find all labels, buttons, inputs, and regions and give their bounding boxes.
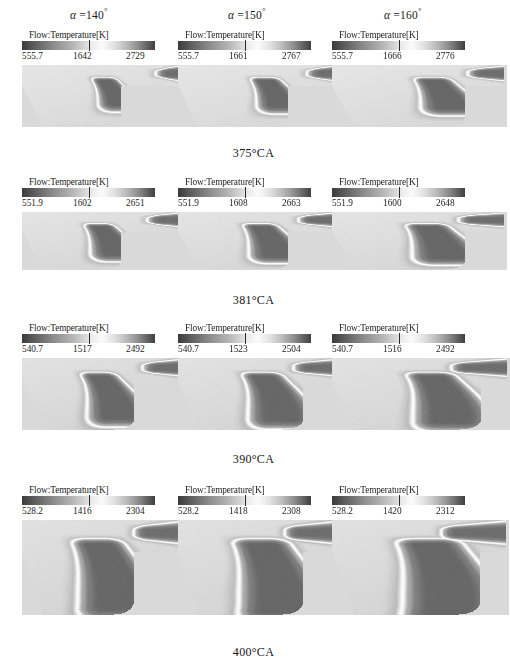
alpha-value: 140	[86, 9, 104, 21]
colorbar-label-max: 2663	[282, 198, 301, 208]
colorbar-label-min: 540.7	[22, 344, 43, 354]
colorbar	[332, 188, 465, 197]
contour-plot	[22, 212, 182, 270]
contour-plot	[178, 358, 343, 430]
colorbar-midtick	[399, 40, 400, 51]
panel-390ca-alpha150: Flow:Temperature[K] 540.7 1523 2504	[178, 323, 343, 430]
colorbar-label-max: 2504	[282, 344, 301, 354]
colorbar-label-mid: 1420	[383, 506, 402, 516]
colorbar	[332, 496, 465, 505]
panel-390ca-alpha160: Flow:Temperature[K] 540.7 1516 2492	[332, 323, 510, 430]
degree-symbol: °	[104, 6, 108, 16]
colorbar-label-min: 551.9	[178, 198, 199, 208]
legend-title: Flow:Temperature[K]	[339, 30, 507, 40]
colorbar	[178, 41, 311, 50]
contour-plot	[178, 520, 343, 615]
equals-sign: =	[390, 9, 400, 21]
colorbar-label-max: 2492	[126, 344, 145, 354]
panel-381ca-alpha150: Flow:Temperature[K] 551.9 1608 2663	[178, 177, 338, 270]
colorbar-midtick	[399, 333, 400, 344]
colorbar-label-mid: 1517	[73, 344, 92, 354]
legend-title: Flow:Temperature[K]	[339, 177, 507, 187]
panel-390ca-alpha140: Flow:Temperature[K] 540.7 1517 2492	[22, 323, 187, 430]
colorbar-tick-labels: 528.2 1420 2312	[332, 506, 482, 518]
contour-plot	[178, 212, 338, 270]
colorbar-tick-labels: 551.9 1608 2663	[178, 198, 328, 210]
contour-plot	[332, 520, 509, 615]
colorbar-label-mid: 1600	[383, 198, 402, 208]
contour-plot	[332, 65, 507, 127]
colorbar-label-mid: 1661	[229, 51, 248, 61]
colorbar-legend: Flow:Temperature[K] 540.7 1523 2504	[178, 323, 343, 356]
colorbar-midtick	[399, 187, 400, 198]
colorbar-tick-labels: 555.7 1642 2729	[22, 51, 172, 63]
colorbar-label-min: 555.7	[178, 51, 199, 61]
legend-title: Flow:Temperature[K]	[29, 323, 187, 333]
legend-title: Flow:Temperature[K]	[29, 30, 182, 40]
panel-400ca-alpha140: Flow:Temperature[K] 528.2 1416 2304	[22, 485, 187, 615]
colorbar-legend: Flow:Temperature[K] 528.2 1420 2312	[332, 485, 509, 518]
colorbar-label-mid: 1516	[383, 344, 402, 354]
legend-title: Flow:Temperature[K]	[185, 177, 338, 187]
colorbar-midtick	[399, 495, 400, 506]
colorbar-midtick	[89, 333, 90, 344]
colorbar-legend: Flow:Temperature[K] 555.7 1642 2729	[22, 30, 182, 63]
colorbar-label-mid: 1602	[73, 198, 92, 208]
column-header-alpha-150: α =150°	[228, 6, 266, 21]
colorbar-legend: Flow:Temperature[K] 551.9 1600 2648	[332, 177, 507, 210]
colorbar-midtick	[245, 40, 246, 51]
alpha-value: 150	[244, 9, 262, 21]
colorbar-tick-labels: 551.9 1602 2651	[22, 198, 172, 210]
column-header-alpha-160: α =160°	[384, 6, 422, 21]
colorbar-label-max: 2304	[126, 506, 145, 516]
row-caption-381ca: 381°CA	[0, 293, 507, 308]
panel-375ca-alpha160: Flow:Temperature[K] 555.7 1666 2776	[332, 30, 507, 127]
colorbar-label-max: 2492	[436, 344, 455, 354]
colorbar	[22, 41, 155, 50]
colorbar-label-max: 2729	[126, 51, 145, 61]
legend-title: Flow:Temperature[K]	[185, 323, 343, 333]
colorbar	[332, 334, 465, 343]
colorbar-legend: Flow:Temperature[K] 528.2 1416 2304	[22, 485, 187, 518]
colorbar-label-mid: 1416	[73, 506, 92, 516]
legend-title: Flow:Temperature[K]	[339, 323, 510, 333]
contour-plot	[332, 212, 507, 270]
colorbar	[178, 188, 311, 197]
colorbar-midtick	[89, 495, 90, 506]
equals-sign: =	[234, 9, 244, 21]
alpha-value: 160	[400, 9, 418, 21]
contour-plot	[22, 65, 182, 127]
colorbar	[22, 496, 155, 505]
colorbar-label-min: 528.2	[332, 506, 353, 516]
colorbar	[178, 334, 311, 343]
row-caption-400ca: 400°CA	[0, 645, 507, 660]
colorbar-label-max: 2651	[126, 198, 145, 208]
colorbar	[332, 41, 465, 50]
colorbar-legend: Flow:Temperature[K] 540.7 1516 2492	[332, 323, 510, 356]
colorbar-tick-labels: 540.7 1516 2492	[332, 344, 482, 356]
row-caption-390ca: 390°CA	[0, 452, 507, 467]
column-header-alpha-140: α =140°	[70, 6, 108, 21]
colorbar-label-mid: 1666	[383, 51, 402, 61]
colorbar-tick-labels: 540.7 1523 2504	[178, 344, 328, 356]
colorbar-tick-labels: 555.7 1666 2776	[332, 51, 482, 63]
equals-sign: =	[76, 9, 86, 21]
colorbar-label-min: 551.9	[332, 198, 353, 208]
colorbar-label-max: 2308	[282, 506, 301, 516]
colorbar-label-min: 540.7	[332, 344, 353, 354]
colorbar-legend: Flow:Temperature[K] 528.2 1418 2308	[178, 485, 343, 518]
colorbar-midtick	[245, 495, 246, 506]
panel-400ca-alpha150: Flow:Temperature[K] 528.2 1418 2308	[178, 485, 343, 615]
colorbar	[22, 334, 155, 343]
colorbar-label-mid: 1523	[229, 344, 248, 354]
colorbar-midtick	[245, 333, 246, 344]
colorbar-midtick	[89, 40, 90, 51]
colorbar-tick-labels: 540.7 1517 2492	[22, 344, 172, 356]
legend-title: Flow:Temperature[K]	[185, 30, 338, 40]
row-caption-375ca: 375°CA	[0, 146, 507, 161]
colorbar-midtick	[89, 187, 90, 198]
colorbar-tick-labels: 528.2 1418 2308	[178, 506, 328, 518]
panel-381ca-alpha160: Flow:Temperature[K] 551.9 1600 2648	[332, 177, 507, 270]
contour-plot	[22, 358, 187, 430]
colorbar-legend: Flow:Temperature[K] 540.7 1517 2492	[22, 323, 187, 356]
